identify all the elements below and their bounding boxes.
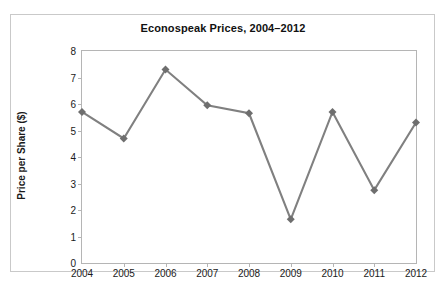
y-tick-label: 3 bbox=[50, 178, 76, 189]
x-tick-label: 2005 bbox=[113, 268, 135, 279]
series-markers-price-per-share bbox=[78, 66, 420, 224]
x-tick-label: 2006 bbox=[154, 268, 176, 279]
y-tick-label: 1 bbox=[50, 231, 76, 242]
y-tick-label: 2 bbox=[50, 205, 76, 216]
chart-title: Econospeak Prices, 2004–2012 bbox=[0, 22, 446, 34]
series-line-price-per-share bbox=[82, 70, 416, 220]
x-tick-mark bbox=[333, 263, 334, 267]
y-tick-label: 8 bbox=[50, 46, 76, 57]
x-tick-label: 2004 bbox=[71, 268, 93, 279]
line-series-svg bbox=[82, 51, 416, 263]
x-tick-label: 2007 bbox=[196, 268, 218, 279]
x-tick-mark bbox=[374, 263, 375, 267]
x-tick-mark bbox=[166, 263, 167, 267]
data-point-marker bbox=[287, 215, 295, 223]
x-tick-label: 2008 bbox=[238, 268, 260, 279]
y-tick-label: 0 bbox=[50, 258, 76, 269]
x-tick-mark bbox=[249, 263, 250, 267]
y-tick-label: 6 bbox=[50, 99, 76, 110]
data-point-marker bbox=[245, 109, 253, 117]
x-tick-mark bbox=[124, 263, 125, 267]
x-tick-label: 2010 bbox=[321, 268, 343, 279]
x-tick-label: 2009 bbox=[280, 268, 302, 279]
y-tick-label: 5 bbox=[50, 125, 76, 136]
x-tick-label: 2011 bbox=[363, 268, 385, 279]
y-axis-title: Price per Share ($) bbox=[16, 101, 27, 211]
y-tick-label: 4 bbox=[50, 152, 76, 163]
x-tick-label: 2012 bbox=[405, 268, 427, 279]
data-point-marker bbox=[329, 108, 337, 116]
chart-figure: Econospeak Prices, 2004–2012 Price per S… bbox=[0, 0, 446, 288]
y-tick-label: 7 bbox=[50, 72, 76, 83]
plot-area: 012345678 200420052006200720082009201020… bbox=[81, 50, 417, 264]
x-tick-mark bbox=[207, 263, 208, 267]
x-tick-mark bbox=[291, 263, 292, 267]
